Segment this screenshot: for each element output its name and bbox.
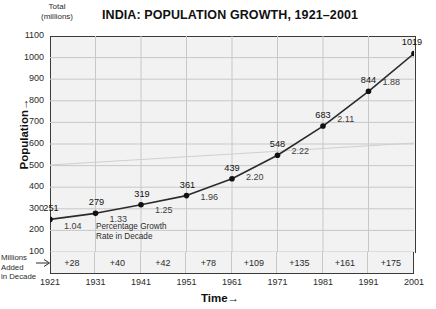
x-tick-label-1961: 1961: [212, 277, 252, 287]
y-tick-label-800: 800: [2, 95, 44, 105]
growth-rate-label-1961-1971: 2.20: [242, 172, 268, 182]
data-point-label-1921: 251: [36, 203, 66, 213]
data-point-label-1931: 279: [82, 197, 112, 207]
y-tick-label-600: 600: [2, 138, 44, 148]
data-point-label-2001: 1019: [397, 37, 427, 47]
x-tick-label-2001: 2001: [394, 277, 434, 287]
population-growth-chart: Total (millions) INDIA: POPULATION GROWT…: [0, 0, 436, 309]
millions-added-cell-1941-1951: +42: [141, 252, 187, 273]
x-tick-label-1941: 1941: [121, 277, 161, 287]
growth-rate-label-1991-2001: 1.88: [378, 77, 404, 87]
growth-rate-label-1971-1981: 2.22: [287, 146, 313, 156]
millions-added-cell-1951-1961: +78: [186, 252, 232, 273]
millions-added-cell-1981-1991: +161: [323, 252, 369, 273]
data-point-label-1941: 319: [127, 189, 157, 199]
x-tick-label-1951: 1951: [167, 277, 207, 287]
y-tick-label-700: 700: [2, 116, 44, 126]
millions-added-cell-1971-1981: +135: [277, 252, 323, 273]
growth-rate-label-1941-1951: 1.25: [151, 205, 177, 215]
growth-rate-label-1981-1991: 2.11: [333, 114, 359, 124]
data-point-label-1951: 361: [173, 180, 203, 190]
growth-rate-annotation-line2: Rate in Decade: [96, 232, 167, 242]
growth-rate-label-1951-1961: 1.96: [196, 192, 222, 202]
y-tick-label-1000: 1000: [2, 52, 44, 62]
growth-rate-annotation: Percentage Growth Rate in Decade: [96, 222, 167, 241]
y-tick-label-500: 500: [2, 160, 44, 170]
right-arrow-icon: [36, 258, 52, 268]
chart-title: INDIA: POPULATION GROWTH, 1921–2001: [60, 8, 400, 22]
y-tick-label-200: 200: [2, 224, 44, 234]
millions-added-cell-1931-1941: +40: [95, 252, 141, 273]
y-tick-label-400: 400: [2, 181, 44, 191]
millions-added-cell-1921-1931: +28: [50, 252, 96, 273]
growth-rate-annotation-line1: Percentage Growth: [96, 222, 167, 232]
growth-rate-label-1921-1931: 1.04: [60, 221, 86, 231]
y-tick-label-1100: 1100: [2, 30, 44, 40]
millions-added-cell-1991-2001: +175: [368, 252, 414, 273]
x-tick-label-1931: 1931: [76, 277, 116, 287]
y-tick-label-900: 900: [2, 73, 44, 83]
x-tick-label-1971: 1971: [258, 277, 298, 287]
x-tick-label-1991: 1991: [349, 277, 389, 287]
millions-added-line2: in Decade: [1, 272, 47, 282]
millions-added-cell-1961-1971: +109: [232, 252, 278, 273]
x-tick-label-1981: 1981: [303, 277, 343, 287]
x-axis-title: Time→: [150, 292, 290, 304]
millions-added-band: +28+40+42+78+109+135+161+175: [50, 252, 414, 274]
